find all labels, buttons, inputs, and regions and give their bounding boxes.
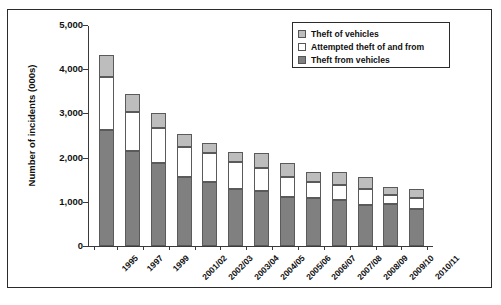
x-axis-tick	[169, 246, 170, 250]
y-axis-tick	[83, 246, 88, 247]
stacked-bar	[99, 0, 114, 246]
bar-segment	[151, 113, 166, 128]
bar-segment	[358, 205, 373, 246]
x-axis-tick	[350, 246, 351, 250]
legend-item: Attempted theft of and from	[298, 40, 444, 53]
stacked-bar	[125, 0, 140, 246]
legend-label: Theft of vehicles	[311, 29, 379, 39]
bar-segment	[228, 189, 243, 246]
y-axis-tick-label: 4,000	[31, 64, 83, 74]
x-axis-tick	[143, 246, 144, 250]
bar-segment	[125, 112, 140, 151]
y-axis-tick-label: 3,000	[31, 108, 83, 118]
bar-segment	[409, 198, 424, 209]
legend-swatch-attempted-theft	[298, 43, 306, 51]
y-axis-tick	[83, 202, 88, 203]
bar-segment	[125, 151, 140, 246]
x-axis-tick-label: 2009/10	[407, 253, 436, 282]
x-axis-tick-label: 2005/06	[304, 253, 333, 282]
bar-segment	[332, 172, 347, 185]
y-axis-tick	[83, 25, 88, 26]
bar-segment	[202, 143, 217, 153]
x-axis-tick-label: 2006/07	[329, 253, 358, 282]
bar-segment	[306, 172, 321, 183]
bar-segment	[358, 189, 373, 204]
x-axis-tick-label: 2001/02	[200, 253, 229, 282]
bar-segment	[332, 200, 347, 246]
x-axis-line	[88, 246, 433, 247]
bar-segment	[383, 187, 398, 195]
y-axis-tick-label: 5,000	[31, 20, 83, 30]
legend-swatch-theft-of-vehicles	[298, 30, 306, 38]
legend-label: Attempted theft of and from	[311, 42, 424, 52]
stacked-bar	[177, 0, 192, 246]
stacked-bar	[228, 0, 243, 246]
x-axis-tick	[195, 246, 196, 250]
stacked-bar	[254, 0, 269, 246]
bar-segment	[383, 195, 398, 204]
y-axis-tick-value: 3,000	[37, 108, 83, 117]
x-axis-tick	[246, 246, 247, 250]
x-axis-tick	[94, 246, 95, 250]
bar-segment	[177, 147, 192, 177]
bar-segment	[151, 128, 166, 163]
x-axis-tick-label: 2010/11	[433, 253, 461, 281]
y-axis-tick-label: 2,000	[31, 153, 83, 163]
x-axis-tick-label: 2002/03	[226, 253, 255, 282]
stacked-bar	[151, 0, 166, 246]
y-axis-tick	[83, 158, 88, 159]
y-axis-tick-value: 2,000	[37, 153, 83, 162]
bar-segment	[409, 189, 424, 198]
bar-segment	[280, 163, 295, 176]
y-axis-tick-value: 1,000	[37, 197, 83, 206]
bar-segment	[409, 209, 424, 246]
x-axis-tick	[427, 246, 428, 250]
chart-figure: Number of incidents (000s) 5,0004,0003,0…	[0, 0, 501, 305]
bar-segment	[202, 153, 217, 182]
bar-segment	[99, 77, 114, 130]
x-axis-tick	[298, 246, 299, 250]
bar-segment	[254, 168, 269, 191]
bar-segment	[177, 177, 192, 246]
x-axis-tick-label: 1997	[145, 253, 165, 273]
legend-item: Theft from vehicles	[298, 53, 444, 66]
legend-label: Theft from vehicles	[311, 55, 390, 65]
bar-segment	[151, 163, 166, 246]
y-axis-tick	[83, 113, 88, 114]
bar-segment	[99, 130, 114, 246]
bar-segment	[383, 204, 398, 246]
x-axis-tick-label: 2003/04	[252, 253, 281, 282]
x-axis-tick	[272, 246, 273, 250]
x-axis-tick-label: 2004/05	[278, 253, 307, 282]
bar-segment	[332, 185, 347, 200]
bar-segment	[358, 177, 373, 190]
x-axis-tick-label: 2007/08	[355, 253, 384, 282]
bar-segment	[228, 152, 243, 162]
bar-segment	[306, 182, 321, 198]
y-axis-tick-value: 4,000	[37, 64, 83, 73]
y-axis-tick-label: 0	[31, 241, 83, 251]
x-axis-tick	[324, 246, 325, 250]
bar-segment	[125, 94, 140, 112]
legend-swatch-theft-from-vehicles	[298, 56, 306, 64]
x-axis-tick-label: 1999	[171, 253, 191, 273]
bar-segment	[202, 182, 217, 246]
x-axis-tick	[401, 246, 402, 250]
bar-segment	[280, 197, 295, 246]
y-axis-tick	[83, 69, 88, 70]
bar-segment	[254, 153, 269, 168]
bar-segment	[99, 55, 114, 77]
bar-segment	[306, 198, 321, 246]
y-axis-tick-label: 1,000	[31, 197, 83, 207]
y-axis-tick-value: 5,000	[37, 20, 83, 29]
x-axis-tick-label: 1995	[119, 253, 139, 273]
chart-legend: Theft of vehicles Attempted theft of and…	[292, 22, 450, 68]
y-axis-tick-value: 0	[37, 241, 83, 250]
bar-segment	[280, 177, 295, 198]
x-axis-tick-label: 2008/09	[381, 253, 410, 282]
x-axis-tick	[117, 246, 118, 250]
bar-segment	[254, 191, 269, 246]
x-axis-tick	[376, 246, 377, 250]
bar-segment	[177, 134, 192, 147]
stacked-bar	[202, 0, 217, 246]
